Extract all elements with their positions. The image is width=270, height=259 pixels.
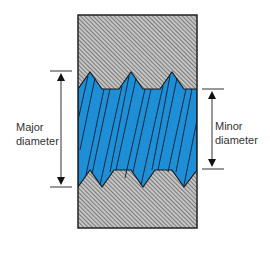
major-label-line2: diameter [16, 134, 59, 148]
minor-diameter-label: Minor diameter [215, 119, 258, 147]
major-label-line1: Major [16, 120, 59, 134]
minor-label-line1: Minor [215, 119, 258, 133]
major-diameter-label: Major diameter [16, 120, 59, 148]
thread-diagram: Major diameter Minor diameter [0, 0, 270, 259]
screw-thread [78, 72, 197, 187]
minor-label-line2: diameter [215, 133, 258, 147]
